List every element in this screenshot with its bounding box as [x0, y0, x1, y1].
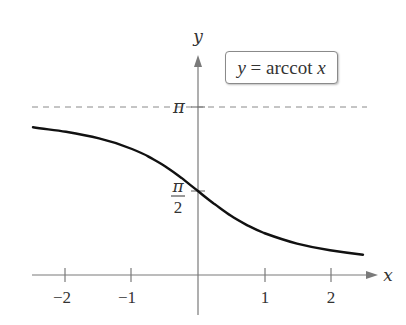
y-tick-label-pi-half-denominator: 2: [174, 198, 183, 217]
y-tick-label-pi-half-numerator: π: [171, 176, 184, 196]
equation-legend-box: y = arccot x: [225, 51, 338, 84]
y-tick-label-pi: π: [172, 96, 186, 117]
legend-y-var: y: [237, 57, 245, 79]
y-axis-label: y: [192, 26, 203, 46]
x-axis-label: x: [383, 265, 393, 285]
legend-x-var: x: [317, 57, 325, 79]
arccot-chart: y x π π 2 −2 −1 1 2: [0, 0, 406, 325]
y-axis-arrow-icon: [194, 55, 202, 67]
x-tick-label-2: 2: [327, 288, 336, 307]
legend-equation-text: = arccot: [246, 57, 317, 79]
x-tick-label--2: −2: [53, 288, 71, 307]
x-tick-label--1: −1: [118, 288, 136, 307]
x-tick-label-1: 1: [261, 288, 270, 307]
x-axis-arrow-icon: [366, 271, 378, 279]
